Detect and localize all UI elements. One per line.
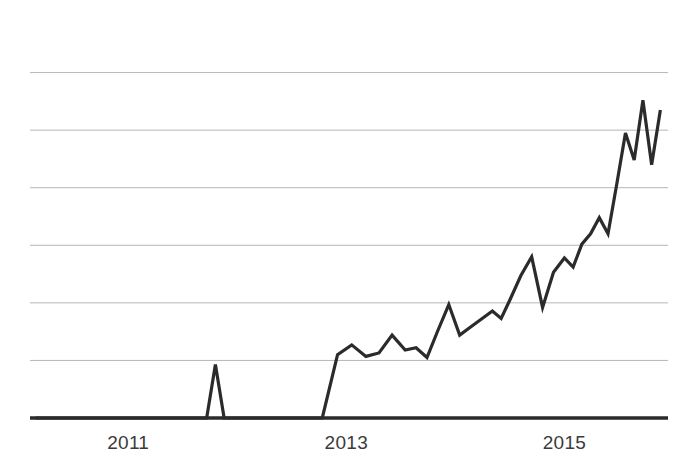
data-series [35, 100, 660, 418]
gridlines [30, 73, 668, 361]
chart-canvas [0, 0, 675, 472]
series-line [35, 100, 660, 418]
line-chart: 2011 2013 2015 [0, 0, 675, 472]
